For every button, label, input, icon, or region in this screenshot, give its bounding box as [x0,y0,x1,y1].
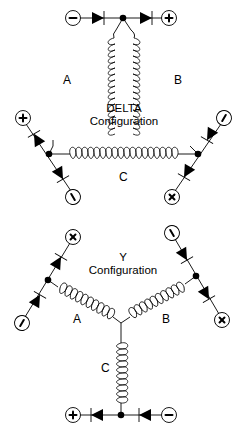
delta-right-rectifier [161,108,234,208]
delta-title-line2: Configuration [90,115,158,127]
coil-b-winding [128,281,187,319]
coil-c-winding [117,343,128,403]
junction-node [46,151,53,158]
negative-terminal-icon [12,313,32,333]
positive-terminal-icon [211,309,232,330]
diode-icon [140,11,152,25]
diode-icon [178,163,196,180]
positive-terminal-icon [16,111,31,126]
positive-terminal-icon [66,408,81,423]
diode-icon [51,165,69,182]
junction-node [118,412,125,419]
delta-configuration: A B C DELTA Configuration [16,11,235,208]
coil-c-label: C [119,170,128,184]
diode-icon [201,126,219,143]
negative-terminal-icon [214,108,234,128]
junction-node [195,151,202,158]
delta-top-rail [66,11,177,26]
diode-icon [49,253,67,270]
coil-a-label: A [63,73,71,87]
diode-icon [28,130,46,147]
delta-title-line1: DELTA [106,102,142,114]
y-title-line2: Configuration [89,264,157,276]
diode-icon [28,291,46,308]
coil-a-winding [58,282,117,320]
diode-icon [175,246,193,263]
positive-terminal-icon [162,11,177,26]
coil-b-label: B [162,312,170,326]
coil-a-label: A [73,312,81,326]
diode-icon [91,408,103,422]
coil-c-winding [70,147,178,158]
negative-terminal-icon [66,11,81,26]
positive-terminal-icon [161,186,182,207]
coil-c-label: C [101,361,110,375]
negative-terminal-icon [162,408,177,423]
y-title-line1: Y [119,251,127,263]
positive-terminal-icon [62,226,83,247]
coil-b-label: B [174,73,182,87]
negative-terminal-icon [63,187,83,207]
diode-icon [92,11,104,25]
negative-terminal-icon [162,223,182,243]
diode-icon [139,408,151,422]
diode-icon [197,285,215,302]
alternator-winding-diagram: A B C DELTA Configuration [0,0,247,430]
y-configuration: A B C Y Configuration [12,223,233,423]
y-right-rectifier [162,223,233,331]
